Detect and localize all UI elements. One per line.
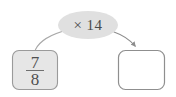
input-box[interactable]: 7 8 xyxy=(13,51,58,90)
output-box-shape[interactable] xyxy=(119,51,165,90)
output-box[interactable] xyxy=(119,51,165,90)
diagram-canvas: 7 8 × 14 xyxy=(0,0,176,97)
connector-operation-to-output xyxy=(114,32,135,46)
input-fraction-denominator: 8 xyxy=(31,70,40,89)
operation-bubble-label: × 14 xyxy=(73,17,102,33)
fraction-multiplication-diagram: 7 8 × 14 xyxy=(0,0,176,97)
connector-input-to-operation xyxy=(35,32,63,53)
operation-bubble[interactable]: × 14 xyxy=(58,11,118,39)
